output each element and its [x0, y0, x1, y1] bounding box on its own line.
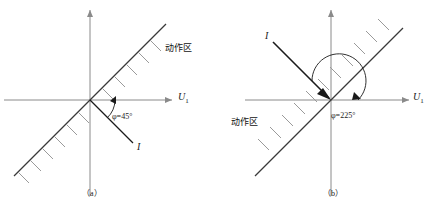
axis-label-u1: U1	[413, 92, 424, 105]
operating-zone-label: 动作区	[231, 118, 258, 127]
hatch-marks	[258, 19, 389, 150]
panel-b-graphic	[213, 0, 425, 208]
current-vector	[90, 100, 133, 143]
figure-canvas: U1 I φ=45° 动作区 （a）	[0, 0, 425, 208]
panel-a: U1 I φ=45° 动作区 （a）	[0, 0, 212, 208]
angle-label: φ=45°	[112, 113, 132, 121]
operating-zone-label: 动作区	[165, 44, 192, 53]
panel-caption-a: （a）	[82, 190, 102, 198]
angle-label: φ=225°	[331, 112, 355, 120]
boundary-line	[255, 28, 403, 176]
axis-label-u1: U1	[178, 92, 189, 105]
angle-arc-arrowhead	[352, 92, 361, 100]
current-label: I	[265, 31, 268, 41]
panel-b: U1 I φ=225° 动作区 （b）	[213, 0, 425, 208]
current-label: I	[137, 142, 140, 152]
current-vector	[273, 42, 329, 98]
panel-caption-b: （b）	[323, 190, 343, 198]
